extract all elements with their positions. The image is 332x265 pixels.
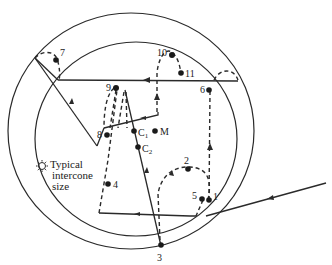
incoming-path xyxy=(206,183,326,216)
label-1: 1 xyxy=(213,191,218,202)
label-10: 10 xyxy=(157,47,167,58)
point-c1 xyxy=(131,128,137,134)
path-7-cross xyxy=(35,58,97,146)
scan-path-diagram: 1 2 3 4 5 6 7 8 9 10 11 M C1 C2 Typical … xyxy=(0,0,332,265)
label-3: 3 xyxy=(157,252,162,263)
label-11: 11 xyxy=(185,68,195,79)
point-4 xyxy=(105,181,111,187)
path-10-loop xyxy=(157,51,181,112)
label-6: 6 xyxy=(200,84,205,95)
label-c1: C1 xyxy=(138,127,149,140)
point-11 xyxy=(178,70,184,76)
point-10 xyxy=(169,52,175,58)
label-m: M xyxy=(160,126,169,137)
legend-line-3: size xyxy=(52,180,69,192)
arc-right xyxy=(214,71,238,80)
point-1 xyxy=(206,197,212,203)
label-9: 9 xyxy=(106,82,111,93)
label-4: 4 xyxy=(113,179,118,190)
arrow-7 xyxy=(69,98,74,104)
label-7: 7 xyxy=(60,47,65,58)
arrow-up-6 xyxy=(207,143,213,150)
point-7 xyxy=(53,57,59,63)
arrow-up-10 xyxy=(154,93,160,100)
arrow-c-3 xyxy=(144,167,149,173)
label-2: 2 xyxy=(184,155,189,166)
label-8: 8 xyxy=(97,129,102,140)
point-m xyxy=(152,128,158,134)
point-9 xyxy=(113,85,119,91)
bottom-path xyxy=(99,213,196,216)
loop-1-2-5 xyxy=(158,167,209,200)
point-8 xyxy=(104,132,110,138)
point-6 xyxy=(206,87,212,93)
arrow-bottom xyxy=(134,212,140,216)
label-c2: C2 xyxy=(142,143,153,156)
path-4-9 xyxy=(99,90,117,213)
label-c2-sub: 2 xyxy=(149,148,153,156)
sun-icon xyxy=(36,160,48,172)
path-5-down xyxy=(196,200,203,216)
label-c1-sub: 1 xyxy=(145,132,149,140)
dash-9-c xyxy=(118,92,124,128)
point-5 xyxy=(199,196,205,202)
point-2 xyxy=(185,166,191,172)
point-3 xyxy=(158,242,164,248)
label-5: 5 xyxy=(192,190,197,201)
point-c2 xyxy=(135,144,141,150)
arrow-top xyxy=(143,77,150,83)
path-9-3 xyxy=(125,90,161,246)
